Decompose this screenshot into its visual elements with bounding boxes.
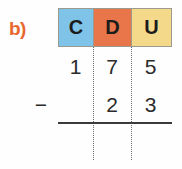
place-value-header: C D U — [58, 8, 172, 47]
subtraction-operator: − — [33, 90, 49, 120]
column-header-hundreds: C — [59, 9, 94, 46]
worksheet-exercise: b) C D U 1 7 5 − 2 3 — [0, 0, 182, 169]
subtrahend-digit-units: 3 — [131, 90, 170, 120]
subtrahend-digit-tens: 2 — [93, 90, 131, 120]
minuend-row: 1 7 5 — [58, 52, 172, 82]
column-header-tens: D — [94, 9, 132, 46]
minuend-digit-hundreds: 1 — [58, 52, 93, 82]
minuend-digit-tens: 7 — [93, 52, 131, 82]
column-header-units: U — [132, 9, 171, 46]
exercise-label: b) — [9, 19, 26, 38]
subtrahend-row: 2 3 — [58, 90, 172, 120]
minuend-digit-units: 5 — [131, 52, 170, 82]
answer-rule-line — [58, 122, 172, 124]
subtrahend-digit-hundreds — [58, 90, 93, 120]
